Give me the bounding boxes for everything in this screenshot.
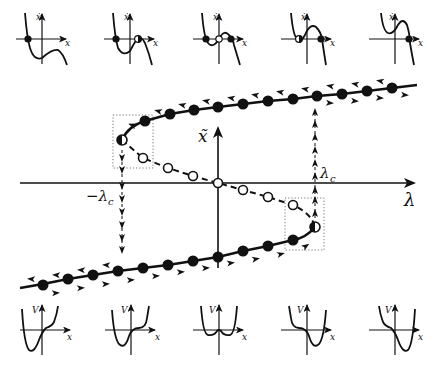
svg-text:x: x	[67, 332, 72, 342]
bottom-inset-0: V x	[20, 305, 72, 355]
bottom-inset-3: V x	[281, 305, 335, 355]
svg-text:ẋ: ẋ	[389, 12, 394, 22]
lambda-axis-label: λ	[403, 189, 415, 210]
bottom-inset-4: V x	[369, 305, 423, 355]
lower-stable-points	[38, 235, 299, 291]
top-inset-0: ẋ x	[16, 12, 70, 65]
svg-text:x: x	[242, 332, 247, 342]
svg-text:x: x	[242, 38, 247, 48]
bottom-inset-1: V x	[105, 305, 160, 355]
bottom-inset-2: V x	[193, 305, 247, 355]
svg-text:V: V	[121, 305, 129, 315]
right-fold-point	[310, 222, 320, 232]
jump-up-arrows	[312, 108, 318, 218]
svg-text:c: c	[108, 196, 114, 207]
svg-text:x: x	[153, 38, 158, 48]
lambda-c-label: λ c	[319, 164, 336, 184]
bifurcation-figure: λ x̃ −λ c λ c	[0, 0, 439, 369]
svg-text:x: x	[330, 38, 335, 48]
figure-canvas: λ x̃ −λ c λ c	[0, 0, 439, 369]
svg-text:V: V	[385, 305, 393, 315]
svg-text:V: V	[209, 305, 217, 315]
jump-down-arrows	[119, 150, 125, 254]
svg-text:ẋ: ẋ	[301, 12, 306, 22]
top-insets: ẋ x ẋ x ẋ x	[16, 12, 423, 65]
svg-text:λ: λ	[319, 164, 330, 182]
svg-text:ẋ: ẋ	[36, 12, 41, 22]
xtilde-axis-label: x̃	[198, 126, 208, 146]
svg-text:ẋ: ẋ	[124, 12, 129, 22]
top-inset-3: ẋ x	[281, 12, 335, 65]
svg-text:V: V	[32, 305, 40, 315]
top-inset-4: ẋ x	[369, 12, 423, 65]
top-inset-2: ẋ x	[193, 12, 247, 65]
svg-text:x: x	[418, 38, 423, 48]
bottom-insets: V x V x V x V x	[20, 305, 423, 355]
svg-text:c: c	[330, 173, 336, 184]
svg-text:−λ: −λ	[86, 187, 108, 205]
svg-text:V: V	[297, 305, 305, 315]
minus-lambda-c-label: −λ c	[86, 187, 114, 207]
main-diagram: λ x̃ −λ c λ c	[20, 77, 417, 296]
svg-text:ẋ: ẋ	[213, 12, 218, 22]
left-fold-point	[117, 135, 127, 145]
top-inset-1: ẋ x	[104, 12, 158, 65]
upper-stable-points	[140, 83, 398, 127]
svg-text:x: x	[418, 332, 423, 342]
svg-text:x: x	[155, 332, 160, 342]
svg-text:x: x	[330, 332, 335, 342]
svg-text:x: x	[65, 38, 70, 48]
